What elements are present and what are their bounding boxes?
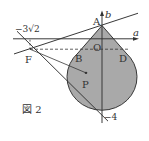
label-b-axis: b (105, 10, 111, 20)
diagram-canvas (0, 0, 149, 141)
label-O: O (93, 43, 101, 53)
label-B: B (75, 54, 82, 64)
label-y-tick: −4 (104, 113, 117, 122)
label-a-axis: a (133, 28, 139, 38)
point-P-dot (85, 72, 88, 74)
label-P: P (82, 80, 89, 90)
b-axis-arrow-icon (100, 10, 104, 16)
label-D: D (119, 54, 127, 64)
label-A: A (93, 17, 100, 27)
figure-caption: 図 2 (22, 105, 42, 115)
label-x-tick: −3√2 (15, 25, 40, 34)
label-F: F (25, 55, 32, 65)
